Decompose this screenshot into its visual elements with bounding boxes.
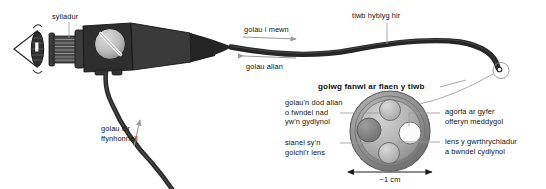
label-long-flexible-tube: tiwb hyblyg hir	[352, 11, 400, 21]
label-scale-bar: ~1 cm	[355, 175, 425, 185]
label-eyepiece: sylladur	[52, 12, 78, 22]
eye-icon	[14, 25, 44, 74]
eyepiece-assembly	[49, 30, 84, 68]
cross-section-view	[350, 91, 430, 171]
channel-lens-wash	[357, 118, 381, 142]
label-light-in: golau i mewn	[244, 25, 289, 35]
control-knob-icon	[95, 29, 126, 60]
channel-incoherent-light-bundle	[380, 100, 401, 121]
channel-objective-lens	[379, 143, 400, 164]
label-light-from-source: golau o'r ffynhonnell	[101, 124, 138, 143]
label-lens-wash-channel: sianel sy'n golchi'r lens	[285, 138, 325, 157]
leader-detail-title	[440, 80, 466, 87]
channel-instrument-port	[399, 122, 421, 144]
arrow-right-icon	[243, 37, 296, 39]
leader-detail-callout	[420, 74, 493, 104]
flexible-tube	[231, 39, 509, 78]
endoscope-diagram: sylladur golau i mewn golau allan tiwb h…	[0, 0, 546, 189]
label-light-out: golau allan	[246, 62, 283, 72]
label-incoherent-bundle: golau'n dod allan o fwndel nad yw'n gydl…	[285, 98, 342, 127]
label-instrument-port: agorfa ar gyfer offeryn meddygol	[445, 107, 503, 126]
label-objective-lens: lens y gwrthrychiadur a bwndel cydlynol	[445, 137, 517, 156]
detail-view-title: golwg fanwl ar flaen y tiwb	[318, 82, 425, 92]
